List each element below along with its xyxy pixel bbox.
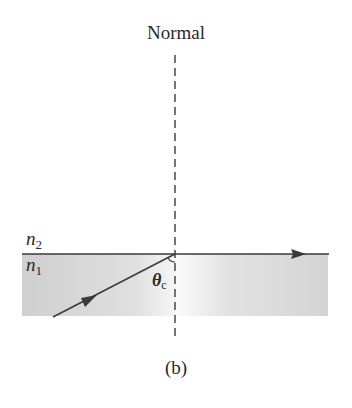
lower-medium-label: n1: [26, 254, 42, 279]
critical-angle-subscript: c: [161, 278, 166, 292]
figure-caption: (b): [0, 357, 352, 379]
medium-n1-region-right: [175, 254, 328, 316]
upper-medium-label: n2: [26, 228, 42, 253]
critical-angle-symbol: θ: [152, 270, 161, 290]
lower-medium-subscript: 1: [36, 263, 43, 278]
diagram-graphics: [0, 0, 352, 408]
lower-medium-symbol: n: [26, 254, 36, 275]
normal-label: Normal: [0, 22, 352, 44]
refraction-critical-angle-diagram: Normal n2 n1 θc (b): [0, 0, 352, 408]
critical-angle-label: θc: [152, 270, 167, 293]
upper-medium-subscript: 2: [36, 237, 43, 252]
upper-medium-symbol: n: [26, 228, 36, 249]
